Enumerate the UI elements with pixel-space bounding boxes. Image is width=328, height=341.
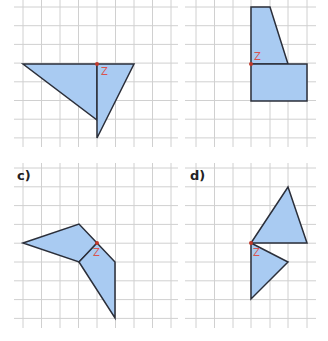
point-label-z: Z (93, 247, 100, 258)
point-label-z: Z (254, 51, 261, 62)
point-label-z: Z (101, 66, 108, 77)
panel-b: Z (249, 7, 307, 101)
center-point-z (249, 241, 253, 245)
point-label-z: Z (253, 247, 260, 258)
center-point-z (95, 241, 99, 245)
panel-label-d: d) (190, 168, 205, 183)
diagram-canvas: Z Z c) Z d) Z (0, 0, 328, 341)
center-point-z (95, 62, 99, 66)
shape-rectangle (251, 64, 307, 101)
panel-d: d) Z (190, 168, 307, 299)
shape-triangle-upper (251, 187, 307, 243)
center-point-z (249, 62, 253, 66)
panel-label-c: c) (17, 168, 31, 183)
